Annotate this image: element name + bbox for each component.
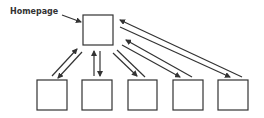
arrow-home-to-page3 <box>113 53 137 76</box>
page-box-3 <box>128 80 157 110</box>
site-structure-diagram <box>0 0 264 118</box>
arrow-page1-to-home <box>52 49 77 76</box>
homepage-box <box>83 15 113 45</box>
label-pointer-arrow <box>62 15 81 22</box>
page-box-2 <box>82 80 112 110</box>
page-box-4 <box>173 80 203 110</box>
arrow-page5-to-home <box>120 20 242 77</box>
page-box-1 <box>37 80 67 110</box>
arrow-page3-to-home <box>117 50 145 77</box>
arrow-page4-to-home <box>126 40 192 77</box>
page-box-5 <box>218 80 248 110</box>
